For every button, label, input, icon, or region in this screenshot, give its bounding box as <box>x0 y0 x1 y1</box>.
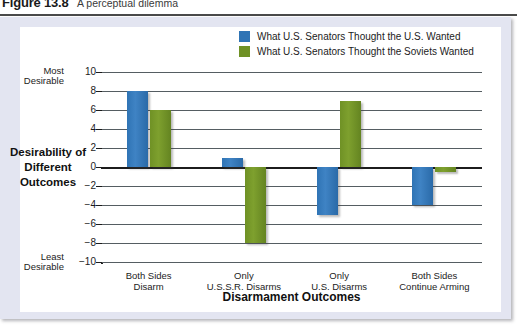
figure-caption-strip: Figure 13.8 A perceptual dilemma <box>0 0 517 13</box>
x-tick-label-3-line-1: Only <box>292 270 387 281</box>
x-tick-label-1-line-1: Both Sides <box>101 270 196 281</box>
y-tick-label-4: 4 <box>66 123 96 134</box>
legend-label-blue: What U.S. Senators Thought the U.S. Want… <box>257 31 460 42</box>
y-tick-mark--6 <box>96 224 102 225</box>
y-tick-mark-10 <box>96 72 102 73</box>
y-tick-label--8: −8 <box>66 237 96 248</box>
figure-caption-text: A perceptual dilemma <box>77 0 178 9</box>
y-tick-mark--2 <box>96 186 102 187</box>
y-tick-label--10: −10 <box>66 256 96 267</box>
legend-item-blue: What U.S. Senators Thought the U.S. Want… <box>239 29 474 43</box>
y-tick-mark--10 <box>96 262 102 263</box>
y-tick-label-2: 2 <box>66 142 96 153</box>
legend-swatch-blue-icon <box>239 31 250 42</box>
y-tick-mark-4 <box>96 129 102 130</box>
y-tick-mark-6 <box>96 110 102 111</box>
y-tick-label-10: 10 <box>66 66 96 77</box>
y-tick-mark-2 <box>96 148 102 149</box>
legend-item-green: What U.S. Senators Thought the Soviets W… <box>239 44 474 58</box>
y-tick-mark-8 <box>96 91 102 92</box>
bar-series-1-category-2 <box>222 158 243 168</box>
legend-label-green: What U.S. Senators Thought the Soviets W… <box>257 46 474 57</box>
figure-panel: What U.S. Senators Thought the U.S. Want… <box>0 17 511 319</box>
y-tick-label-8: 8 <box>66 85 96 96</box>
bar-series-1-category-3 <box>317 167 338 215</box>
y-tick-label-0: 0 <box>66 161 96 172</box>
caption-divider <box>0 14 517 16</box>
bar-series-1-category-1 <box>127 91 148 167</box>
most-desirable-line-2: Desirable <box>6 76 64 86</box>
x-axis-title: Disarmament Outcomes <box>101 290 482 304</box>
legend-swatch-green-icon <box>239 46 250 57</box>
least-desirable-line-2: Desirable <box>6 262 64 272</box>
y-tick-label--4: −4 <box>66 199 96 210</box>
gridline--10 <box>101 262 482 263</box>
gridline--4 <box>101 205 482 206</box>
gridline-10 <box>101 72 482 73</box>
gridline--6 <box>101 224 482 225</box>
bar-series-2-category-2 <box>245 167 266 243</box>
gridline-8 <box>101 91 482 92</box>
y-tick-label--6: −6 <box>66 218 96 229</box>
y-tick-mark--8 <box>96 243 102 244</box>
gridline--8 <box>101 243 482 244</box>
chart-legend: What U.S. Senators Thought the U.S. Want… <box>239 29 474 59</box>
bar-series-2-category-4 <box>435 167 456 172</box>
y-tick-mark--4 <box>96 205 102 206</box>
plot-area <box>101 72 482 262</box>
y-tick-label-6: 6 <box>66 104 96 115</box>
figure-number: Figure 13.8 <box>2 0 68 10</box>
bar-series-2-category-1 <box>150 110 171 167</box>
x-tick-label-3: OnlyU.S. Disarms <box>292 270 387 292</box>
x-tick-label-4-line-1: Both Sides <box>387 270 482 281</box>
x-tick-label-4: Both SidesContinue Arming <box>387 270 482 292</box>
y-axis-tick-labels: 1086420−2−4−6−8−10 <box>60 27 96 312</box>
x-tick-label-1: Both SidesDisarm <box>101 270 196 292</box>
least-desirable-label: Least Desirable <box>6 252 64 272</box>
most-desirable-label: Most Desirable <box>6 66 64 86</box>
bar-series-1-category-4 <box>412 167 433 205</box>
y-tick-label--2: −2 <box>66 180 96 191</box>
bar-series-2-category-3 <box>340 101 361 168</box>
x-tick-label-2: OnlyU.S.S.R. Disarms <box>196 270 291 292</box>
x-tick-label-2-line-1: Only <box>196 270 291 281</box>
chart-panel: What U.S. Senators Thought the U.S. Want… <box>20 27 501 312</box>
y-tick-mark-0 <box>96 167 102 168</box>
